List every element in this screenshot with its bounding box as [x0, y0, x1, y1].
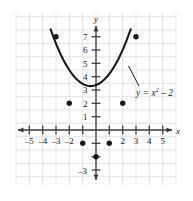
y-axis-label: y — [93, 14, 98, 24]
data-point — [133, 34, 138, 39]
x-tick-label: 3 — [134, 136, 139, 146]
y-tick-label: 5 — [83, 59, 88, 69]
equation-label: y = x2 – 2 — [135, 86, 173, 97]
x-tick-label: 5 — [160, 136, 165, 146]
y-tick-label: 7 — [83, 32, 88, 42]
parabola-curve — [51, 29, 131, 86]
y-tick-label: 1 — [83, 112, 88, 122]
y-tick-label: –3 — [77, 166, 88, 176]
x-tick-label: –4 — [37, 136, 48, 146]
data-point — [67, 101, 72, 106]
y-tick-label: 2 — [83, 99, 88, 109]
data-point — [53, 34, 58, 39]
graph-figure: –5 –4 –3 –2 2 3 4 5 7 6 5 4 3 2 1 –3 x y — [0, 0, 193, 201]
x-tick-label: –2 — [64, 136, 74, 146]
data-point — [120, 101, 125, 106]
x-axis — [18, 126, 172, 135]
x-tick-label: –3 — [51, 136, 62, 146]
y-tick-label: 6 — [83, 45, 88, 55]
y-tick-label: 3 — [83, 85, 88, 95]
data-point — [80, 141, 85, 146]
x-tick-label: –5 — [24, 136, 35, 146]
data-point — [107, 141, 112, 146]
x-tick-label: 2 — [120, 136, 125, 146]
equation-tail: – 2 — [159, 88, 174, 98]
x-tick-label: 4 — [147, 136, 152, 146]
parabola-plot: –5 –4 –3 –2 2 3 4 5 7 6 5 4 3 2 1 –3 x y — [0, 0, 193, 201]
x-axis-label: x — [175, 126, 180, 136]
y-tick-label: 4 — [83, 72, 88, 82]
data-point — [93, 154, 98, 159]
equation-base: y = x — [135, 88, 156, 98]
